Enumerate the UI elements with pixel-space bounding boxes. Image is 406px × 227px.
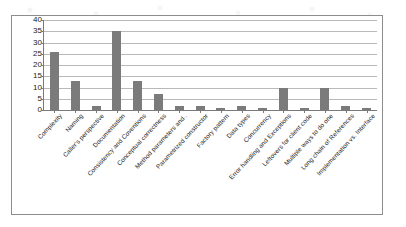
chart-plot-wrapper: 4035302520151050 ComplexityNamingCaller'… [12,16,384,216]
y-axis-tick-label: 15 [20,72,42,80]
bar-slot [148,20,169,110]
bar-slot [127,20,148,110]
bar-slot [294,20,315,110]
y-axis-tick-label: 20 [20,61,42,69]
y-axis-tick-label: 25 [20,50,42,58]
y-axis-tick-label: 10 [20,84,42,92]
bar-slot [106,20,127,110]
y-axis-tick-label: 5 [20,95,42,103]
bar [320,88,329,111]
plot-area [43,20,377,111]
bar-slot [356,20,377,110]
x-axis-labels: ComplexityNamingCaller's perspectiveDocu… [43,112,376,212]
x-axis-category-label: Naming [64,112,84,133]
y-axis-tick-label: 35 [20,27,42,35]
y-axis: 4035302520151050 [18,20,42,110]
y-axis-tick-label: 40 [20,16,42,24]
y-axis-tick-label: 0 [20,106,42,114]
x-axis-category-label: Complexity [36,112,63,140]
bar [133,81,142,110]
bar-slot [65,20,86,110]
bar-slot [190,20,211,110]
bar [279,88,288,111]
bar [154,94,163,110]
bar-slot [335,20,356,110]
bar-slot [273,20,294,110]
bar-slot [86,20,107,110]
bar [71,81,80,110]
y-axis-tick-label: 30 [20,39,42,47]
bar-slot [315,20,336,110]
chart-frame: 4035302520151050 ComplexityNamingCaller'… [11,15,383,215]
bar-slot [211,20,232,110]
bar [112,31,121,110]
bar-series [44,20,377,110]
y-axis-tick-mark [41,110,44,111]
bar-slot [169,20,190,110]
bar-slot [231,20,252,110]
bar [50,52,59,111]
bar-slot [44,20,65,110]
bar-slot [252,20,273,110]
